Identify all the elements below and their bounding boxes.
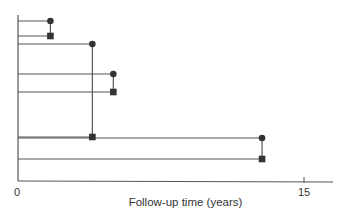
square-marker	[47, 33, 54, 40]
square-marker	[110, 89, 117, 96]
circle-marker	[110, 71, 117, 78]
circle-marker	[259, 135, 266, 142]
x-axis-label: Follow-up time (years)	[0, 196, 351, 208]
circle-marker	[89, 41, 96, 48]
square-marker	[89, 134, 96, 141]
square-marker	[259, 156, 266, 163]
circle-marker	[47, 18, 54, 25]
chart: 0 15 Follow-up time (years)	[0, 0, 351, 219]
x-axis	[18, 181, 333, 182]
